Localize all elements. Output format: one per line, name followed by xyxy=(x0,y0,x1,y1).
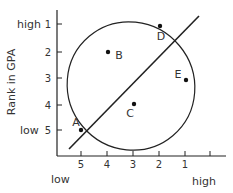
point-b-label: B xyxy=(115,49,123,62)
y-tick-label: 2 xyxy=(45,47,51,58)
y-axis-title: Rank in GPA xyxy=(5,48,18,115)
y-tick-label: 1 xyxy=(45,19,51,30)
point-e xyxy=(184,78,188,82)
point-a-label: A xyxy=(72,116,80,129)
x-tick-label: 1 xyxy=(182,159,188,170)
enclosing-ellipse xyxy=(41,0,221,176)
point-b xyxy=(106,50,110,54)
x-tick-label: 5 xyxy=(78,159,84,170)
point-c-label: C xyxy=(126,107,134,120)
x-ticks xyxy=(81,151,210,156)
point-d-label: D xyxy=(157,30,165,43)
scatter-diagram: 1 2 3 4 5 5 4 3 2 1 high low low high Ra… xyxy=(0,0,233,193)
y-tick-label: 3 xyxy=(45,73,51,84)
x-high-label: high xyxy=(192,175,216,188)
point-d xyxy=(158,24,162,28)
point-c xyxy=(132,102,136,106)
point-e-label: E xyxy=(175,68,182,81)
x-tick-label: 4 xyxy=(104,159,110,170)
y-ticks xyxy=(57,24,62,130)
x-tick-label: 2 xyxy=(156,159,162,170)
y-tick-label: 4 xyxy=(45,100,51,111)
y-tick-label: 5 xyxy=(45,125,51,136)
x-tick-label: 3 xyxy=(130,159,136,170)
y-high-label: high xyxy=(17,18,41,31)
x-low-label: low xyxy=(51,173,70,186)
y-low-label: low xyxy=(20,124,39,137)
